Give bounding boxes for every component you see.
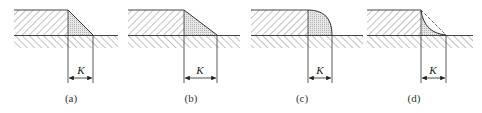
panel-a: [14, 10, 118, 83]
base-plate: [14, 36, 118, 48]
caption-b: (b): [185, 92, 198, 104]
dimension-label-k: K: [77, 64, 84, 76]
weld-bead-convex: [308, 10, 332, 35]
dimension-label-k: K: [196, 64, 203, 76]
upper-plate: [14, 10, 68, 35]
dimension-label-k: K: [429, 64, 436, 76]
panel-d: [367, 10, 473, 83]
panel-b: [128, 10, 240, 83]
dimension-label-k: K: [316, 64, 323, 76]
caption-d: (d): [408, 92, 421, 104]
caption-c: (c): [296, 92, 308, 104]
panel-c: [251, 10, 363, 83]
caption-a: (a): [65, 92, 77, 104]
